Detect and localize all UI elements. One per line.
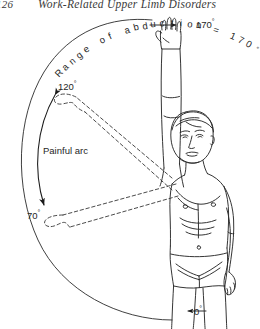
- arm-dashed-120: [54, 94, 172, 190]
- human-figure: [156, 17, 236, 329]
- angle-label-0: 0°: [194, 305, 202, 317]
- shorts: [170, 246, 227, 288]
- painful-arc-label: Painful arc: [43, 146, 88, 156]
- raised-arm: [160, 49, 184, 187]
- head: [171, 111, 214, 163]
- arm-dashed-70: [45, 184, 178, 227]
- anatomical-illustration: [0, 0, 260, 329]
- torso: [170, 184, 229, 249]
- angle-label-170: 170°: [196, 18, 215, 30]
- raised-hand: [156, 17, 181, 49]
- angle-label-70: 70°: [27, 209, 40, 221]
- figure-page: 126 Work-Related Upper Limb Disorders: [0, 0, 260, 329]
- angle-label-120: 120°: [58, 80, 77, 92]
